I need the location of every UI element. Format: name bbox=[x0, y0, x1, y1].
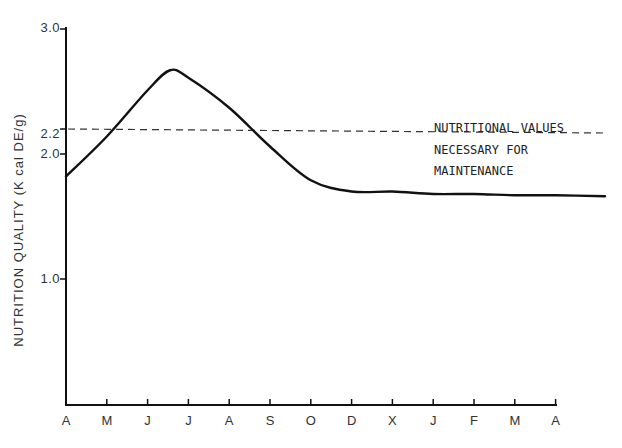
x-tick-label: J bbox=[430, 413, 437, 428]
x-tick-label: M bbox=[509, 413, 520, 428]
x-tick-label: J bbox=[144, 413, 151, 428]
x-tick-label: S bbox=[266, 413, 275, 428]
x-tick-label: X bbox=[388, 413, 397, 428]
annotation-line-2: NECESSARY FOR bbox=[434, 143, 528, 157]
line-chart bbox=[0, 0, 622, 448]
x-tick-label: O bbox=[306, 413, 316, 428]
x-tick-label: J bbox=[185, 413, 192, 428]
annotation-line-3: MAINTENANCE bbox=[434, 164, 513, 178]
x-tick-label: M bbox=[101, 413, 112, 428]
y-tick-label: 2.0 bbox=[20, 146, 60, 161]
x-tick-label: A bbox=[551, 413, 560, 428]
y-tick-label: 1.0 bbox=[20, 271, 60, 286]
annotation-line-1: NUTRITIONAL VALUES bbox=[434, 121, 564, 135]
x-tick-label: D bbox=[347, 413, 356, 428]
x-tick-label: F bbox=[470, 413, 478, 428]
x-tick-label: A bbox=[225, 413, 234, 428]
y-tick-label: 3.0 bbox=[20, 20, 60, 35]
y-tick-label: 2.2 bbox=[20, 126, 60, 141]
x-tick-label: A bbox=[62, 413, 71, 428]
